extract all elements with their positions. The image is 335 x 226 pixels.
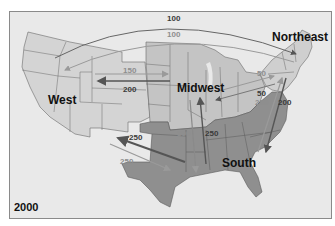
flow-label-south-to-west: 250 [129,134,142,142]
region-label-south: South [222,157,256,169]
flow-label-midwest-to-south: 300 [177,130,190,138]
region-label-west: West [48,94,76,106]
flow-label-south-to-midwest: 250 [205,130,218,138]
flow-label-west-to-northeast: 100 [167,15,180,23]
flow-label-northeast-to-west: 100 [167,31,180,39]
flow-label-west-to-midwest: 150 [123,67,136,75]
region-label-midwest: Midwest [177,82,224,94]
region-label-northeast: Northeast [272,31,328,43]
flow-label-northeast-to-midwest: 50 [257,90,266,98]
year-label: 2000 [14,201,38,213]
flow-label-midwest-to-northeast: 50 [257,70,266,78]
flow-label-midwest-to-west: 200 [123,86,136,94]
flow-label-northeast-to-south: 200 [278,99,291,107]
flow-label-west-to-south: 250 [120,158,133,166]
migration-map: West Midwest Northeast South 100 100 150… [9,11,332,219]
flow-label-south-to-northeast: 250 [255,99,268,107]
